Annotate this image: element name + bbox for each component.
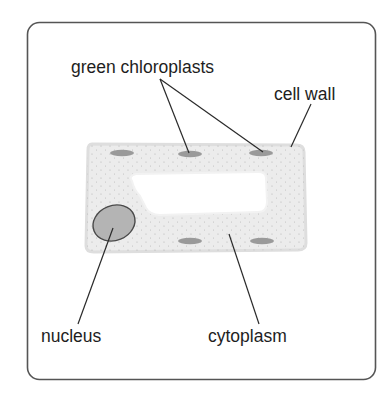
chloroplast — [110, 150, 134, 156]
label-nucleus: nucleus — [41, 326, 102, 346]
chloroplast — [178, 238, 202, 244]
label-cell-wall: cell wall — [274, 84, 335, 104]
plant-cell — [86, 144, 306, 252]
vacuole — [131, 172, 267, 215]
chloroplast — [178, 151, 202, 157]
label-cytoplasm: cytoplasm — [208, 326, 287, 346]
chloroplast — [250, 238, 274, 244]
plant-cell-diagram: green chloroplasts cell wall nucleus cyt… — [0, 0, 385, 403]
label-green-chloroplasts: green chloroplasts — [71, 57, 214, 77]
